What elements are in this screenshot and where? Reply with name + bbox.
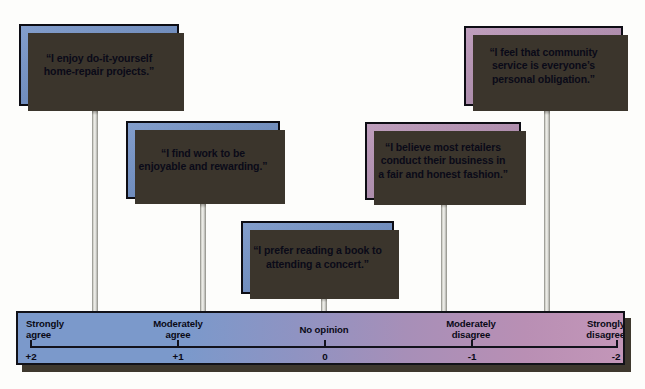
billboard-sign-1[interactable]: “I enjoy do-it-yourself home-repair proj…	[19, 24, 179, 106]
scale-value-minus1: -1	[459, 351, 485, 362]
scale-label-strongly-disagree: Strongly disagree	[531, 318, 625, 341]
scale-tick-minus2	[616, 340, 618, 347]
billboard-sign-4[interactable]: “I believe most retailers conduct their …	[365, 122, 521, 200]
sign-quote-text: “I prefer reading a book to attending a …	[253, 244, 382, 270]
scale-value-minus2: -2	[603, 351, 625, 362]
sign-quote-text: “I enjoy do-it-yourself home-repair proj…	[44, 52, 154, 78]
likert-scale-bar: Strongly agree Moderately agree No opini…	[16, 311, 631, 372]
scale-label-moderately-agree: Moderately agree	[123, 318, 233, 341]
likert-scale-figure: “I enjoy do-it-yourself home-repair proj…	[0, 0, 645, 389]
scale-tick-plus1	[177, 340, 179, 347]
scale-tick-zero	[324, 340, 326, 347]
sign-pole-5	[544, 106, 550, 316]
billboard-sign-2[interactable]: “I find work to be enjoyable and rewardi…	[126, 121, 280, 199]
scale-value-zero: 0	[312, 351, 338, 362]
sign-pole-1	[92, 106, 98, 316]
scale-label-moderately-disagree: Moderately disagree	[416, 318, 526, 341]
sign-quote-text: “I feel that community service is everyo…	[489, 46, 597, 86]
scale-bar-surface: Strongly agree Moderately agree No opini…	[16, 311, 625, 365]
scale-tick-minus1	[471, 340, 473, 347]
scale-label-no-opinion: No opinion	[269, 324, 379, 335]
scale-tick-plus2	[30, 340, 32, 347]
scale-value-plus2: +2	[18, 351, 44, 362]
sign-quote-text: “I find work to be enjoyable and rewardi…	[139, 147, 268, 173]
scale-value-plus1: +1	[165, 351, 191, 362]
billboard-sign-3[interactable]: “I prefer reading a book to attending a …	[241, 221, 394, 294]
sign-quote-text: “I believe most retailers conduct their …	[378, 141, 508, 181]
sign-pole-4	[441, 199, 447, 316]
billboard-sign-5[interactable]: “I feel that community service is everyo…	[464, 26, 623, 106]
sign-pole-2	[200, 199, 206, 316]
scale-label-strongly-agree: Strongly agree	[18, 318, 122, 341]
